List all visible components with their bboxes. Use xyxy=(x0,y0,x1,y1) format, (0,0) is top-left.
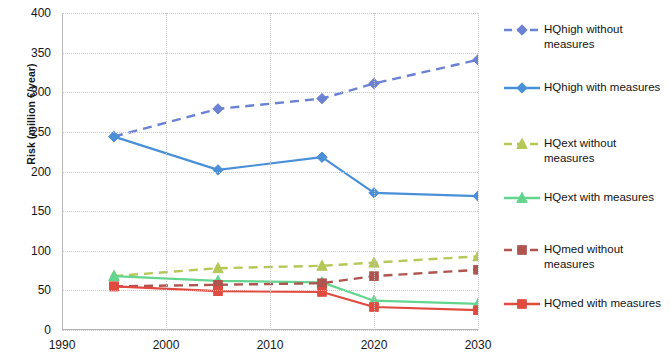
data-point-marker xyxy=(517,83,527,93)
chart-page: Risk (million €/year) 050100150200250300… xyxy=(0,0,671,362)
legend-label: HQext with measures xyxy=(544,190,668,205)
legend-item-hqext-without-measures[interactable]: HQext without measures xyxy=(503,136,668,165)
legend-item-hqmed-without-measures[interactable]: HQmed without measures xyxy=(503,242,668,271)
legend-key-svg xyxy=(503,242,541,258)
legend-key-triangle-icon xyxy=(503,190,541,206)
legend-item-hqhigh-with-measures[interactable]: HQhigh with measures xyxy=(503,80,668,96)
series-hqmed-with-measures xyxy=(110,282,478,314)
data-point-marker xyxy=(109,131,119,141)
series-line xyxy=(114,60,478,137)
gridline-vertical xyxy=(478,13,479,330)
legend-label: HQhigh with measures xyxy=(544,80,668,95)
y-axis-tick-label: 50 xyxy=(17,284,51,296)
legend-key-svg xyxy=(503,296,541,312)
legend-label: HQext without measures xyxy=(544,136,668,165)
data-point-marker xyxy=(213,104,223,114)
legend-key-svg xyxy=(503,22,541,38)
legend-key-square-icon xyxy=(503,296,541,312)
y-axis-tick-label: 200 xyxy=(17,166,51,178)
gridline-vertical xyxy=(374,13,375,330)
legend-label: HQmed with measures xyxy=(544,296,668,311)
y-axis-tick-label: 400 xyxy=(17,7,51,19)
x-axis-tick-label: 2010 xyxy=(240,338,300,352)
legend-key-triangle-icon xyxy=(503,136,541,152)
legend-label: HQmed without measures xyxy=(544,242,668,271)
legend-key-svg xyxy=(503,190,541,206)
legend-key-square-icon xyxy=(503,242,541,258)
series-line xyxy=(114,256,478,276)
x-axis-tick-label: 2000 xyxy=(136,338,196,352)
series-hqhigh-with-measures xyxy=(109,131,478,201)
data-point-marker xyxy=(517,25,527,35)
y-axis-tick-label: 100 xyxy=(17,245,51,257)
y-axis-tick-label: 300 xyxy=(17,86,51,98)
y-axis-tick-labels: 050100150200250300350400 xyxy=(17,0,51,362)
data-point-marker xyxy=(518,246,527,255)
legend-key-diamond-icon xyxy=(503,80,541,96)
legend-item-hqhigh-without-measures[interactable]: HQhigh without measures xyxy=(503,22,668,51)
data-point-marker xyxy=(318,279,327,288)
chart-legend: HQhigh without measuresHQhigh with measu… xyxy=(503,0,671,362)
y-axis-tick-label: 0 xyxy=(17,324,51,336)
gridline-vertical xyxy=(166,13,167,330)
data-point-marker xyxy=(318,288,327,297)
legend-label: HQhigh without measures xyxy=(544,22,668,51)
series-hqext-without-measures xyxy=(109,251,478,281)
gridline-vertical xyxy=(270,13,271,330)
legend-item-hqmed-with-measures[interactable]: HQmed with measures xyxy=(503,296,668,312)
plot-area xyxy=(62,13,478,330)
legend-key-svg xyxy=(503,80,541,96)
y-axis-tick-label: 250 xyxy=(17,126,51,138)
legend-key-diamond-icon xyxy=(503,22,541,38)
y-axis-tick-label: 150 xyxy=(17,205,51,217)
x-axis-tick-label: 2020 xyxy=(344,338,404,352)
series-hqhigh-without-measures xyxy=(109,55,478,142)
series-line xyxy=(114,137,478,197)
data-point-marker xyxy=(518,300,527,309)
data-point-marker xyxy=(317,93,327,103)
y-axis-tick-label: 350 xyxy=(17,47,51,59)
legend-item-hqext-with-measures[interactable]: HQext with measures xyxy=(503,190,668,206)
gridline-horizontal xyxy=(62,330,478,331)
legend-key-svg xyxy=(503,136,541,152)
x-axis-tick-label: 1990 xyxy=(32,338,92,352)
x-axis-tick-label: 2030 xyxy=(448,338,508,352)
data-point-marker xyxy=(213,165,223,175)
